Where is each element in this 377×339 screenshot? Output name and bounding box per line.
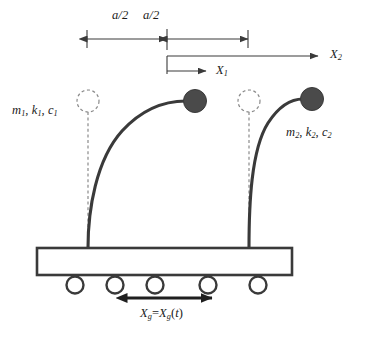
paren-close: ) bbox=[179, 306, 183, 320]
column-structure-2 bbox=[249, 99, 303, 248]
roller-group bbox=[67, 277, 267, 294]
x1-base: X bbox=[216, 63, 224, 77]
displacement-arrow-x1 bbox=[167, 56, 206, 74]
c1-subscript: 1 bbox=[54, 109, 58, 118]
dimension-label-right: a/2 bbox=[143, 9, 159, 22]
m2-symbol: m bbox=[286, 125, 295, 139]
x2-subscript: 2 bbox=[338, 53, 342, 62]
xg-base-1: X bbox=[140, 306, 148, 320]
mass-structure-1 bbox=[184, 90, 207, 113]
roller bbox=[250, 277, 267, 294]
displacement-label-x1: X1 bbox=[216, 64, 228, 79]
base-platform bbox=[37, 248, 292, 275]
x1-subscript: 1 bbox=[224, 69, 228, 78]
column-structure-1 bbox=[88, 101, 186, 248]
mass-structure-2 bbox=[301, 88, 324, 111]
displacement-label-x2: X2 bbox=[330, 48, 342, 63]
properties-label-structure-1: m1, k1, c1 bbox=[12, 104, 58, 119]
x2-base: X bbox=[330, 47, 338, 61]
structural-dynamics-diagram: a/2 a/2 X2 X1 m1, k1, c1 m2, k2, c2 Xg=X… bbox=[0, 0, 377, 339]
m1-symbol: m bbox=[12, 103, 21, 117]
properties-label-structure-2: m2, k2, c2 bbox=[286, 126, 332, 141]
dimension-label-left: a/2 bbox=[112, 9, 128, 22]
roller bbox=[200, 277, 217, 294]
roller bbox=[147, 277, 164, 294]
ground-motion-label: Xg=Xg(t) bbox=[140, 307, 183, 322]
c2-subscript: 2 bbox=[328, 131, 332, 140]
xg-base-2: X bbox=[159, 306, 167, 320]
diagram-canvas bbox=[0, 0, 377, 339]
roller bbox=[107, 277, 124, 294]
equals-sign: = bbox=[152, 306, 159, 320]
roller bbox=[67, 277, 84, 294]
